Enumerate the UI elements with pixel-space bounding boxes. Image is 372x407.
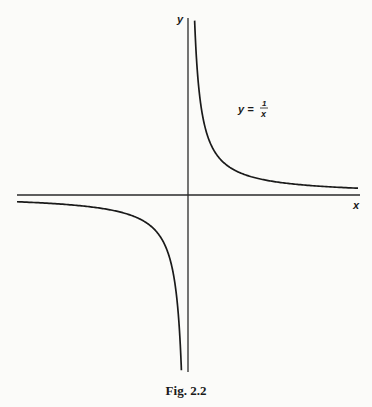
curve-label-lhs: y = (237, 103, 254, 115)
curve-branch-negative (17, 202, 181, 371)
hyperbola-figure: y x y = 1 x (0, 0, 372, 407)
figure-caption: Fig. 2.2 (0, 383, 372, 399)
curve-label-numerator: 1 (262, 99, 267, 108)
x-axis-label: x (352, 199, 360, 211)
y-axis-label: y (176, 13, 184, 25)
curve-label-denominator: x (260, 109, 267, 119)
curve-branch-positive (195, 21, 358, 189)
curve-label: y = 1 x (237, 99, 268, 119)
